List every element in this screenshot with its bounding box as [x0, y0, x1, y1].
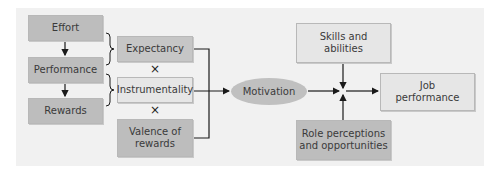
role-label-line1: Role perceptions [302, 128, 385, 140]
role-label-line2: and opportunities [299, 140, 387, 152]
expectancy-label: Expectancy [126, 43, 184, 55]
skills-box: Skills and abilities [296, 23, 391, 63]
valence-label-line1: Valence of [129, 126, 181, 138]
valence-box: Valence of rewards [117, 119, 193, 157]
effort-box: Effort [28, 15, 103, 41]
job-label-line1: Job [420, 80, 435, 92]
motivation-label: Motivation [243, 86, 296, 97]
motivation-ellipse: Motivation [231, 78, 307, 105]
skills-label-line2: abilities [324, 43, 363, 55]
job-performance-box: Job performance [380, 73, 475, 111]
job-label-line2: performance [395, 92, 459, 104]
rewards-label: Rewards [44, 105, 86, 117]
skills-label-line1: Skills and [320, 31, 368, 43]
effort-label: Effort [52, 22, 79, 34]
instrumentality-label: Instrumentality [117, 84, 194, 96]
expectancy-box: Expectancy [117, 36, 193, 62]
multiply-icon: × [147, 104, 163, 116]
valence-label-line2: rewards [135, 138, 175, 150]
role-perceptions-box: Role perceptions and opportunities [296, 120, 391, 160]
multiply-icon: × [147, 63, 163, 75]
performance-label: Performance [34, 64, 97, 76]
rewards-box: Rewards [28, 98, 103, 124]
performance-box: Performance [28, 57, 103, 83]
instrumentality-box: Instrumentality [117, 77, 193, 103]
